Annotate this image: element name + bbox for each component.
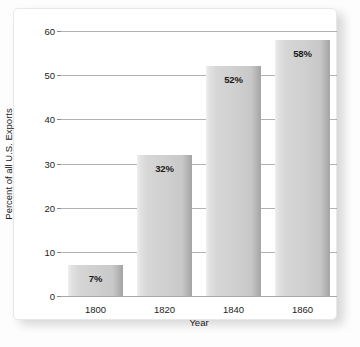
gridline: [61, 296, 337, 297]
y-axis-tick-mark: [57, 119, 61, 120]
y-axis-tick-mark: [57, 31, 61, 32]
x-axis-tick-label: 1840: [206, 304, 261, 315]
y-axis-tick-label: 30: [44, 158, 55, 169]
y-axis-tick-label: 10: [44, 246, 55, 257]
y-axis-tick-mark: [57, 252, 61, 253]
y-axis-tick-mark: [57, 296, 61, 297]
bar-slot: 58%1860: [275, 31, 330, 296]
screenshot-root: 0102030405060 7%180032%182052%184058%186…: [0, 0, 360, 347]
y-axis-title: Percent of all U.S. Exports: [3, 108, 14, 219]
y-axis-tick-label: 60: [44, 26, 55, 37]
bar[interactable]: 32%: [137, 155, 192, 296]
chart-card: 0102030405060 7%180032%182052%184058%186…: [13, 8, 337, 320]
bar-value-label: 52%: [206, 74, 261, 85]
x-axis-tick-label: 1820: [137, 304, 192, 315]
bar[interactable]: 52%: [206, 66, 261, 296]
plot-area: 0102030405060 7%180032%182052%184058%186…: [61, 31, 337, 296]
bar-value-label: 58%: [275, 48, 330, 59]
bar-value-label: 7%: [68, 273, 123, 284]
bar-value-label: 32%: [137, 163, 192, 174]
y-axis-tick-label: 40: [44, 114, 55, 125]
bar-slot: 32%1820: [137, 31, 192, 296]
y-axis-tick-mark: [57, 164, 61, 165]
y-axis-tick-mark: [57, 208, 61, 209]
bar-slot: 7%1800: [68, 31, 123, 296]
y-axis-tick-label: 20: [44, 202, 55, 213]
bar[interactable]: 7%: [68, 265, 123, 296]
y-axis-tick-label: 0: [50, 291, 55, 302]
bar-slot: 52%1840: [206, 31, 261, 296]
x-axis-tick-label: 1860: [275, 304, 330, 315]
y-axis-tick-label: 50: [44, 70, 55, 81]
y-axis-tick-mark: [57, 75, 61, 76]
x-axis-title: Year: [61, 317, 337, 328]
bar[interactable]: 58%: [275, 40, 330, 296]
x-axis-tick-label: 1800: [68, 304, 123, 315]
